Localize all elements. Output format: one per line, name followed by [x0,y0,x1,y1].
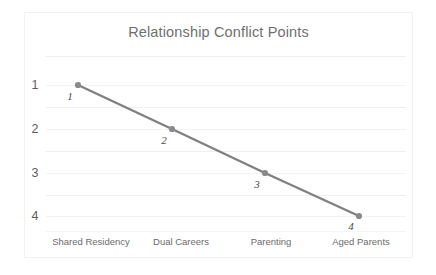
x-tick-dual-careers: Dual Careers [136,236,226,252]
y-tick-3: 3 [24,166,46,180]
axis-bottom-rule [46,231,406,232]
x-tick-aged-parents: Aged Parents [316,236,406,252]
y-axis: 1 2 3 4 [24,56,46,220]
y-tick-1: 1 [24,78,46,92]
y-tick-2: 2 [24,122,46,136]
data-point-2 [169,126,175,132]
chart-container: Relationship Conflict Points 1 2 3 4 1 2… [0,0,436,275]
data-label-2: 2 [161,134,167,146]
x-axis: Shared Residency Dual Careers Parenting … [46,236,406,252]
data-point-3 [262,170,268,176]
x-tick-shared-residency: Shared Residency [46,236,136,252]
plot-area: 1 2 3 4 [46,56,406,220]
data-label-3: 3 [254,178,260,190]
series-line [46,56,406,220]
data-point-1 [75,82,81,88]
chart-title: Relationship Conflict Points [24,24,413,40]
data-point-4 [356,213,362,219]
data-label-1: 1 [67,90,73,102]
y-tick-4: 4 [24,209,46,223]
x-tick-parenting: Parenting [226,236,316,252]
